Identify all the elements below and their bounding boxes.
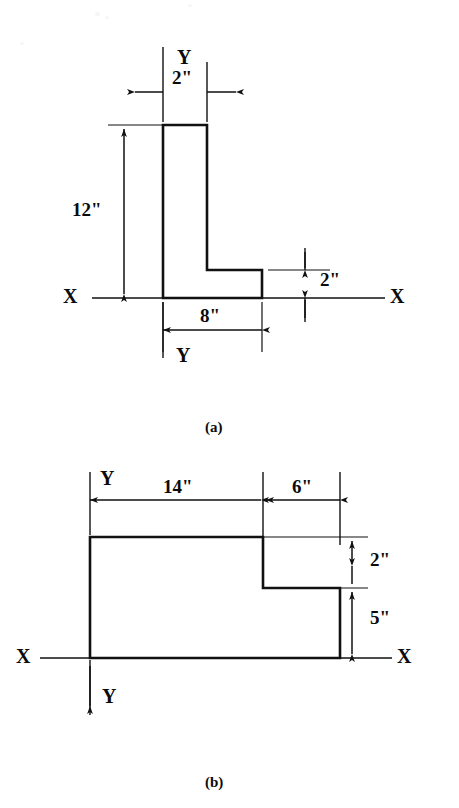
figure-a-x-axis-label-left: X [63,286,77,306]
figure-drawing-canvas [0,0,459,808]
figure-a-l-section-outline [163,125,262,298]
figure-b-left-width-label: 14" [163,477,193,496]
figure-a-group [92,47,385,358]
figure-b-step-height-label: 2" [370,550,390,569]
figure-b-x-axis-label-right: X [397,646,411,666]
figure-b-caption: (b) [205,775,223,790]
figure-b-group [40,472,392,715]
figure-a-height-label: 12" [72,200,102,219]
figure-a-caption: (a) [205,420,223,435]
figure-b-lower-height-label: 5" [370,608,390,627]
figure-b-y-axis-label-bottom: Y [102,686,116,706]
figure-page: Y 2" 12" X X 2" 8" Y (a) Y 14" 6" 2" 5" … [0,0,459,808]
figure-a-width-label: 8" [200,306,220,325]
figure-a-y-axis-label-bottom: Y [176,345,190,365]
figure-b-stepped-section-outline [90,537,340,658]
figure-b-y-axis-label-top: Y [100,468,114,488]
figure-b-x-axis-label-left: X [16,646,30,666]
figure-a-x-axis-label-right: X [390,286,404,306]
figure-a-flange-thickness-label: 2" [320,270,340,289]
figure-b-right-width-label: 6" [292,477,312,496]
figure-a-y-axis-label-top: Y [177,47,191,67]
figure-a-stem-width-label: 2" [172,68,192,87]
